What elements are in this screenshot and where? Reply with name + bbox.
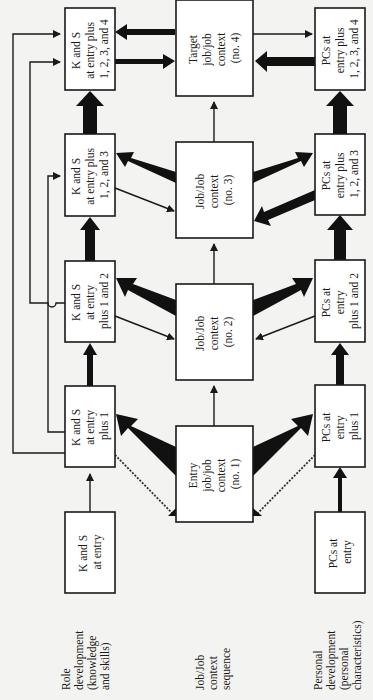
personal-box-pc2: PCs at entry plus 1 and 2: [315, 260, 365, 342]
svg-text:Entry job/job cont: Entry job/job context (no. 1): [187, 456, 242, 493]
role-box-ks0: K and S at entry: [65, 512, 115, 593]
row-label-personal: Personal development (personal character…: [312, 620, 364, 690]
personal-box-pc4: PCs at entry plus 1, 2, 3, and 4: [315, 8, 365, 90]
svg-text:Job/Job context (n: Job/Job context (no. 2): [194, 313, 235, 351]
feedback-lines: [13, 34, 65, 453]
role-box-ks3: K and S at entry plus 1, 2, and 3: [65, 134, 115, 216]
row-label-job: Job/Job context sequence: [194, 648, 233, 690]
svg-text:PCs at entry: PCs at entry: [327, 536, 354, 569]
role-box-ks1: K and S at entry plus 1: [65, 386, 115, 467]
role-box-ks4: K and S at entry plus 1, 2, 3, and 4: [65, 8, 115, 90]
personal-box-pc0: PCs at entry: [315, 512, 365, 593]
row-label-role: Role development (knowledge and skills): [60, 628, 112, 690]
job-box-target: Target job/job context (no. 4): [176, 0, 253, 96]
svg-text:K and S at entry: K and S at entry: [77, 532, 104, 572]
svg-text:Target job/job con: Target job/job context (no. 4): [187, 30, 242, 67]
career-development-diagram: K and S at entry K and S at entry plus 1…: [0, 0, 373, 700]
svg-text:Role development (: Role development (knowledge and skills): [60, 628, 112, 690]
svg-text:Personal development: Personal development (personal character…: [312, 620, 364, 690]
personal-box-pc1: PCs at entry plus 1: [315, 385, 365, 467]
role-box-ks2: K and S at entry plus 1 and 2: [65, 261, 115, 342]
job-box-2: Job/Job context (no. 2): [176, 284, 253, 380]
svg-text:PCs at entry plus: PCs at entry plus 1: [320, 410, 361, 443]
job-box-entry: Entry job/job context (no. 1): [176, 426, 253, 522]
personal-box-pc3: PCs at entry plus 1, 2, and 3: [315, 134, 365, 215]
svg-text:Job/Job context se: Job/Job context sequence: [194, 648, 233, 690]
job-box-3: Job/Job context (no. 3): [176, 142, 253, 238]
svg-text:Job/Job context (n: Job/Job context (no. 3): [194, 171, 235, 209]
